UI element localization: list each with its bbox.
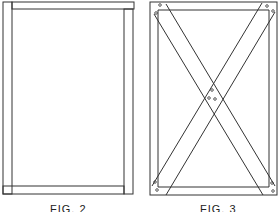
fig3-diagonal-brace-a xyxy=(154,4,275,195)
fig2-frame xyxy=(3,2,134,194)
fig2-bottom-rail xyxy=(3,186,124,194)
figures-canvas xyxy=(0,0,279,212)
fig3-fasteners xyxy=(154,4,275,193)
fig2-left-stile xyxy=(3,2,12,194)
fig3-label: FIG. 3 xyxy=(200,203,237,212)
fig2-right-stile xyxy=(124,9,133,194)
fig2-top-rail xyxy=(12,2,134,9)
fig2-label: FIG. 2 xyxy=(50,203,87,212)
